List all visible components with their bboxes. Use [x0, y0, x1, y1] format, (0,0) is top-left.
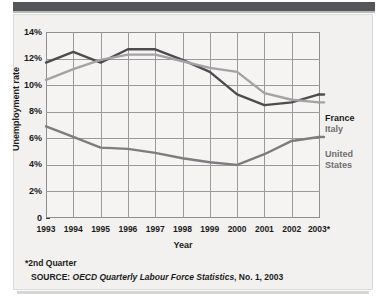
y-axis-tick-labels: 14%12%10%8%6%4%2%0 [4, 32, 42, 218]
source-line: SOURCE: OECD Quarterly Labour Force Stat… [31, 272, 283, 282]
panel-bottom-shadow [17, 291, 369, 294]
source-suffix: , No. 1, 2003 [234, 272, 283, 282]
series-line-italy [46, 55, 319, 103]
x-axis-title: Year [46, 240, 320, 250]
y-tick-label: 0 [8, 214, 42, 223]
footnote: *2nd Quarter [25, 258, 77, 268]
top-banner-shadow [13, 11, 375, 13]
top-banner [13, 2, 375, 11]
series-layer [46, 32, 320, 218]
legend-item-united-states-line1: United [325, 149, 353, 159]
y-axis-title: Unemployment rate [11, 49, 21, 169]
legend-item-france: France [325, 113, 355, 123]
legend-item-united-states-line2: States [325, 160, 352, 170]
plot-area [46, 32, 320, 218]
source-prefix: SOURCE: [31, 272, 73, 282]
y-tick-label: 14% [8, 28, 42, 37]
y-tick-label: 2% [8, 187, 42, 196]
source-title: OECD Quarterly Labour Force Statistics [73, 272, 235, 282]
unemployment-rate-figure: 14%12%10%8%6%4%2%0 Unemployment rate 199… [0, 0, 381, 304]
series-line-united-states [46, 126, 319, 165]
y-tick-mark [46, 218, 50, 219]
legend-item-italy: Italy [325, 124, 343, 134]
x-tick-label: 2003* [303, 225, 335, 234]
